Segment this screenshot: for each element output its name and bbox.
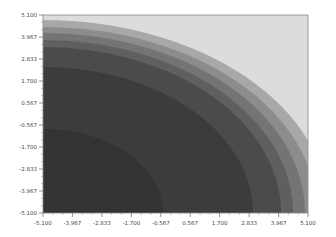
y-tick-label: -1.700 [19,144,37,150]
x-tick-label: -1.700 [122,220,140,226]
x-tick-label: 0.567 [182,220,198,226]
x-tick-label: -3.967 [64,220,82,226]
x-tick-label: 1.700 [212,220,228,226]
x-tick-label: 2.833 [241,220,257,226]
x-tick-label: -2.833 [93,220,111,226]
y-tick-label: 5.100 [21,12,37,18]
y-tick-label: -0.567 [19,122,37,128]
y-axis: 5.1003.9672.8331.7000.567-0.567-1.700-2.… [19,12,43,216]
x-axis: -5.100-3.967-2.833-1.700-0.5670.5671.700… [34,213,316,226]
x-tick-label: -0.567 [152,220,170,226]
y-tick-label: 2.833 [21,56,37,62]
y-tick-label: -2.833 [19,166,37,172]
x-tick-label: 3.967 [271,220,287,226]
y-tick-label: -5.100 [19,210,37,216]
x-tick-label: 5.100 [300,220,316,226]
y-tick-label: -3.967 [19,188,37,194]
y-tick-label: 3.967 [21,34,37,40]
plot-area [0,15,329,237]
x-tick-label: -5.100 [34,220,52,226]
y-tick-label: 1.700 [21,78,37,84]
contour-chart: 5.1003.9672.8331.7000.567-0.567-1.700-2.… [0,0,336,237]
y-tick-label: 0.567 [21,100,37,106]
